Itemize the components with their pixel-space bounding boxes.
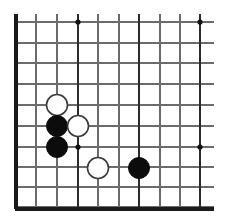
stone-black-1[interactable] (47, 116, 68, 137)
star-top-right-area-icon (197, 19, 202, 24)
star-top-left-area-icon (75, 19, 80, 24)
stone-black-2[interactable] (47, 137, 68, 158)
stone-white-1[interactable] (47, 95, 68, 116)
star-lower-left-area-icon (75, 144, 80, 149)
stone-white-3[interactable] (88, 158, 109, 179)
board-background (0, 0, 225, 224)
go-board-diagram: Go board position diagram (0, 0, 225, 224)
stone-black-3[interactable] (129, 158, 150, 179)
star-lower-right-area-icon (197, 144, 202, 149)
stone-white-2[interactable] (68, 116, 89, 137)
go-board-canvas[interactable] (0, 0, 225, 224)
